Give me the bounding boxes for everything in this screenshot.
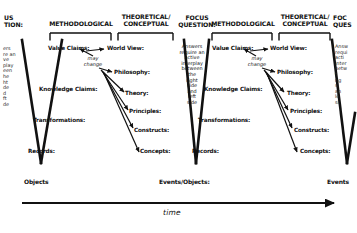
may-change-annotation-1: may change: [80, 55, 106, 67]
left-label-value-claims-2: Value Claims:: [212, 45, 253, 51]
methodological-heading-2: METHODOLOGICAL: [206, 20, 280, 27]
focus-text-center: Answers require an active interplay betw…: [176, 44, 208, 106]
focus-question-heading-3: FOC QUES: [333, 14, 357, 28]
time-axis-label: time: [163, 208, 181, 217]
left-label-records-2: Records:: [192, 148, 219, 154]
header-bracket-methodological-2: [212, 33, 272, 41]
header-bracket-theoretical-2: [279, 33, 330, 41]
vertex-label-events-objects: Events/Objects:: [159, 178, 210, 185]
left-label-knowledge-claims-2: Knowledge Claims:: [204, 86, 262, 92]
theoretical-heading-1: THEORETICAL/ CONCEPTUAL: [118, 13, 174, 27]
focus-text-clipped-left: ers re an ve play een he ht de d ft de: [3, 46, 19, 108]
focus-question-heading-1: US TION:: [4, 14, 34, 28]
vee-shape-1: [22, 40, 62, 163]
right-label-philosophy-2: Philosophy:: [277, 69, 313, 75]
right-label-constructs-2: Constructs:: [294, 127, 329, 133]
right-label-world-view-1: World View:: [107, 45, 144, 51]
right-label-world-view-2: World View:: [270, 45, 307, 51]
right-label-philosophy-1: Philosophy:: [114, 69, 150, 75]
methodological-heading-1: METHODOLOGICAL: [44, 20, 118, 27]
header-bracket-theoretical-1: [118, 33, 173, 41]
vertex-label-objects: Objects: [24, 178, 48, 185]
right-label-constructs-1: Constructs:: [134, 127, 169, 133]
header-bracket-methodological-1: [50, 33, 111, 41]
right-label-principles-1: Principles:: [129, 108, 161, 114]
left-label-records-1: Records:: [28, 148, 55, 154]
left-label-transformations-2: Transformations:: [198, 117, 250, 123]
may-change-annotation-2: may change: [244, 55, 270, 67]
left-label-knowledge-claims-1: Knowledge Claims:: [39, 86, 97, 92]
right-label-theory-1: Theory:: [125, 90, 148, 96]
right-label-theory-2: Theory:: [287, 90, 310, 96]
theoretical-heading-2: THEORETICAL/ CONCEPTUAL: [278, 13, 332, 27]
right-label-concepts-2: Concepts:: [300, 148, 330, 154]
vertex-label-events: Events: [327, 178, 349, 185]
left-label-value-claims-1: Value Claims:: [48, 45, 89, 51]
left-label-transformations-1: Transformations:: [33, 117, 85, 123]
right-label-concepts-1: Concepts:: [140, 148, 170, 154]
focus-text-clipped-right: Answ requi acti inter betw t rig si an l…: [335, 44, 355, 106]
right-label-principles-2: Principles:: [290, 108, 322, 114]
